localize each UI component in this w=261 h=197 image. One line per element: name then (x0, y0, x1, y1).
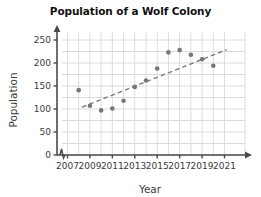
x-axis-tick-labels: 20072009201120132015201720192021 (56, 161, 236, 171)
x-axis-tick-label: 2017 (168, 161, 191, 171)
data-point (88, 103, 93, 108)
x-axis-tick-label: 2015 (146, 161, 169, 171)
y-axis-tick-label: 150 (34, 81, 51, 91)
data-point (166, 50, 171, 55)
data-point (132, 85, 137, 90)
data-point (144, 78, 149, 83)
trend-line-segment (82, 50, 227, 108)
scatter-plot: 050100150200250 200720092011201320152017… (0, 0, 261, 197)
gridlines (62, 32, 245, 155)
x-axis-arrowhead (245, 152, 252, 159)
y-axis-tick-label: 100 (34, 104, 51, 114)
x-axis-tick-label: 2013 (123, 161, 146, 171)
y-axis-tick-label: 50 (40, 127, 52, 137)
data-point (200, 57, 205, 62)
data-point (189, 52, 194, 57)
trend-line (82, 50, 227, 108)
data-point (155, 66, 160, 71)
x-axis-tick-label: 2011 (101, 161, 124, 171)
chart-figure: Population of a Wolf Colony 050100150200… (0, 0, 261, 197)
data-point (99, 108, 104, 113)
y-axis-tick-label: 200 (34, 58, 51, 68)
data-point (211, 63, 216, 68)
x-axis-tick-label: 2021 (213, 161, 236, 171)
data-point (76, 88, 81, 93)
data-point (177, 48, 182, 53)
x-axis-tick-label: 2007 (56, 161, 79, 171)
y-axis-tick-label: 0 (45, 150, 51, 160)
x-axis-break-icon (60, 149, 65, 158)
axes (54, 25, 252, 158)
y-axis-arrowhead (54, 25, 61, 32)
data-point (110, 106, 115, 111)
x-axis-label: Year (138, 183, 162, 195)
y-axis-tick-label: 250 (34, 35, 51, 45)
x-axis-tick-label: 2009 (78, 161, 101, 171)
y-axis-tick-labels: 050100150200250 (34, 35, 51, 160)
data-point (121, 98, 126, 103)
x-axis-tick-label: 2019 (191, 161, 214, 171)
y-axis-label: Population (7, 72, 19, 127)
